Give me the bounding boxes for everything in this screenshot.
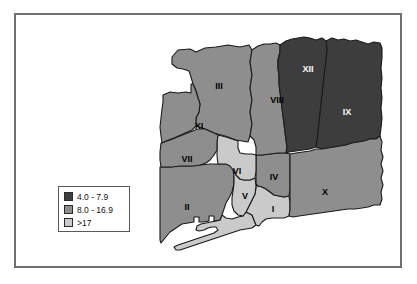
- map-area: IIIIIIIVVVIVIIVIIIIXXXIXII: [0, 0, 417, 284]
- legend-item-label: >17: [77, 218, 91, 228]
- figure-root: IIIIIIIVVVIVIIVIIIIXXXIXII 4.0 - 7.9 8.0…: [0, 0, 417, 284]
- legend-item[interactable]: 4.0 - 7.9: [64, 190, 125, 203]
- legend-swatch-icon: [64, 192, 73, 201]
- legend-item[interactable]: >17: [64, 216, 125, 229]
- legend-swatch-icon: [64, 205, 73, 214]
- choropleth-map: IIIIIIIVVVIVIIVIIIIXXXIXII: [0, 0, 417, 284]
- legend-item-label: 4.0 - 7.9: [77, 192, 108, 202]
- legend-item-label: 8.0 - 16.9: [77, 205, 113, 215]
- legend-swatch-icon: [64, 218, 73, 227]
- regions-layer: [160, 37, 383, 250]
- map-legend: 4.0 - 7.9 8.0 - 16.9 >17: [58, 186, 130, 232]
- legend-item[interactable]: 8.0 - 16.9: [64, 203, 125, 216]
